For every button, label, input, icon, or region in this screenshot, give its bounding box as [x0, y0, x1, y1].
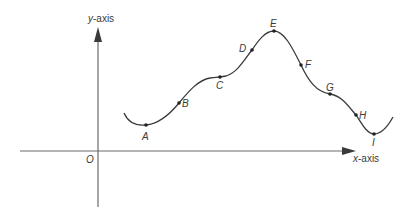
- origin-label: O: [86, 154, 94, 165]
- curve-diagram: y-axis x-axis O A B C D E F G H I: [0, 0, 420, 216]
- point-e-marker: [272, 29, 276, 33]
- point-d-label: D: [239, 43, 246, 54]
- point-b-marker: [177, 101, 181, 105]
- point-c-label: C: [216, 80, 224, 91]
- point-f-marker: [299, 63, 303, 67]
- y-axis-arrow-icon: [94, 27, 102, 42]
- point-h-label: H: [359, 110, 367, 121]
- point-f-label: F: [305, 59, 312, 70]
- point-a-marker: [144, 123, 148, 127]
- point-i-marker: [372, 132, 376, 136]
- point-h-marker: [354, 113, 358, 117]
- point-i-label: I: [372, 137, 375, 148]
- point-b-label: B: [182, 98, 189, 109]
- point-d-marker: [250, 48, 254, 52]
- y-axis-label: y-axis: [87, 13, 114, 24]
- point-g-label: G: [326, 82, 334, 93]
- x-axis-label: x-axis: [352, 153, 379, 164]
- point-a-label: A: [141, 131, 149, 142]
- point-c-marker: [218, 75, 222, 79]
- function-curve: [124, 31, 393, 134]
- point-e-label: E: [270, 18, 277, 29]
- diagram-canvas: y-axis x-axis O A B C D E F G H I: [0, 0, 420, 216]
